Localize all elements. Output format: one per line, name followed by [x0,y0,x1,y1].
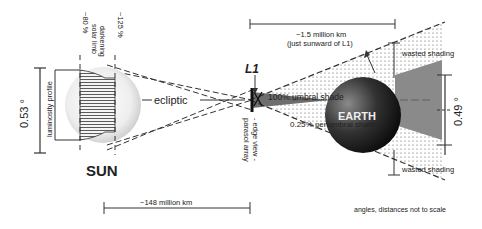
distance-l1-line1: ~1.5 million km [296,30,346,39]
limb-darkening-line2: darkening [98,26,106,57]
sunshade-diagram: SUN EARTH L1 ecliptic 100% umbral shade … [0,0,482,229]
scale-note: angles, distances not to scale [354,206,446,214]
parasol-line2: - edge view - [251,118,260,161]
pct-125-label: ~125 % [116,12,125,38]
distance-sun-label: ~148 million km [140,198,192,207]
limb-darkening-line1: solar limb [91,24,98,54]
penumbral-label: 0.25% penumbral shade [290,120,377,129]
l1-label: L1 [245,62,259,76]
wasted-bottom-label: wasted shading [401,165,454,174]
umbral-label: 100% umbral shade [268,92,344,102]
distance-l1-line2: (just sunward of L1) [287,39,353,48]
earth-angle-label: 0.49 ° [452,97,464,126]
pct-80-label: ~80 % [81,12,90,34]
ecliptic-label: ecliptic [154,94,188,106]
luminosity-profile-label: luminosity profile [45,81,54,137]
parasol-line1: parasol array [242,118,251,162]
limb-darkening-profile [80,70,115,140]
wasted-top-label: wasted shading [401,49,454,58]
sun-label: SUN [86,162,118,179]
sun-angle-label: 0.53 ° [18,99,30,128]
